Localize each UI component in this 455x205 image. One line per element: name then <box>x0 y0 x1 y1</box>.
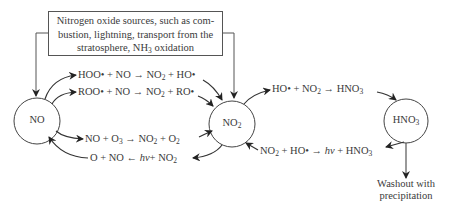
arrow-no2-to-r4 <box>193 145 222 158</box>
reaction-ho-no2: HO• + NO2 → HNO3 <box>272 83 363 95</box>
no2-node-label: NO2 <box>214 117 250 129</box>
hno3-node-label: HNO3 <box>386 114 426 126</box>
washout-label: Washout with precipitation <box>366 178 446 202</box>
reaction-no-o3: NO + O3 → NO2 + O2 <box>85 133 180 145</box>
sources-line-3: stratosphere, NH3 oxidation <box>49 41 222 55</box>
arrow-r3-to-no2 <box>199 131 212 137</box>
arrow-no-to-r3 <box>56 131 83 139</box>
sources-line-1: Nitrogen oxide sources, such as com- <box>49 14 222 28</box>
arrow-r6-to-no2 <box>246 143 258 150</box>
arrow-hno3-to-r6 <box>386 142 404 147</box>
washout-line-2: precipitation <box>366 190 446 202</box>
arrow-r1-to-no2 <box>203 80 222 100</box>
arrow-r4-to-no <box>49 137 88 158</box>
nox-sources-box: Nitrogen oxide sources, such as com- bus… <box>48 11 223 56</box>
arrow-r2-to-no2 <box>198 96 213 106</box>
reaction-roo-no: ROO• + NO → NO2 + RO• <box>78 86 194 98</box>
washout-line-1: Washout with <box>366 178 446 190</box>
reaction-no2-photolysis: O + NO ← hν+ NO2 <box>90 152 177 164</box>
arrow-no2-to-r5 <box>244 90 270 104</box>
reaction-hno3-photolysis: NO2 + HO• → hν + HNO3 <box>260 145 372 157</box>
sources-line-2: bustion, lightning, transport from the <box>49 28 222 42</box>
source-to-no2-connector <box>223 33 234 98</box>
arrow-r5-to-hno3 <box>377 92 396 100</box>
reaction-hoo-no: HOO• + NO → NO2 + HO• <box>78 69 195 81</box>
no-node-label: NO <box>22 114 52 126</box>
arrow-no-to-r2 <box>52 92 76 104</box>
source-to-no-connector <box>36 33 48 96</box>
